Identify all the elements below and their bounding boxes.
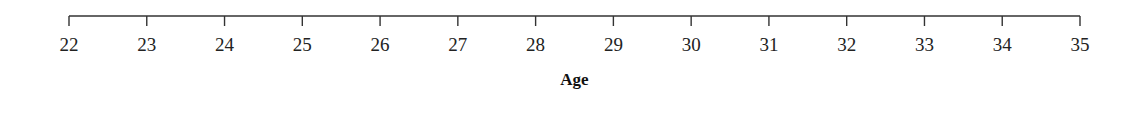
tick-label: 27 [448, 34, 467, 55]
tick-label: 33 [915, 34, 934, 55]
tick-label: 34 [993, 34, 1013, 55]
axis-title: Age [560, 70, 589, 89]
tick-label: 30 [682, 34, 701, 55]
tick-label: 31 [759, 34, 778, 55]
tick-label: 23 [137, 34, 156, 55]
tick-label: 22 [60, 34, 79, 55]
tick-label: 35 [1071, 34, 1090, 55]
x-axis: 2223242526272829303132333435 Age [0, 0, 1140, 120]
tick-labels: 2223242526272829303132333435 [60, 34, 1090, 55]
tick-label: 26 [371, 34, 390, 55]
tick-label: 28 [526, 34, 545, 55]
tick-label: 32 [837, 34, 856, 55]
tick-marks [69, 16, 1080, 26]
tick-label: 24 [215, 34, 235, 55]
tick-label: 29 [604, 34, 623, 55]
tick-label: 25 [293, 34, 312, 55]
